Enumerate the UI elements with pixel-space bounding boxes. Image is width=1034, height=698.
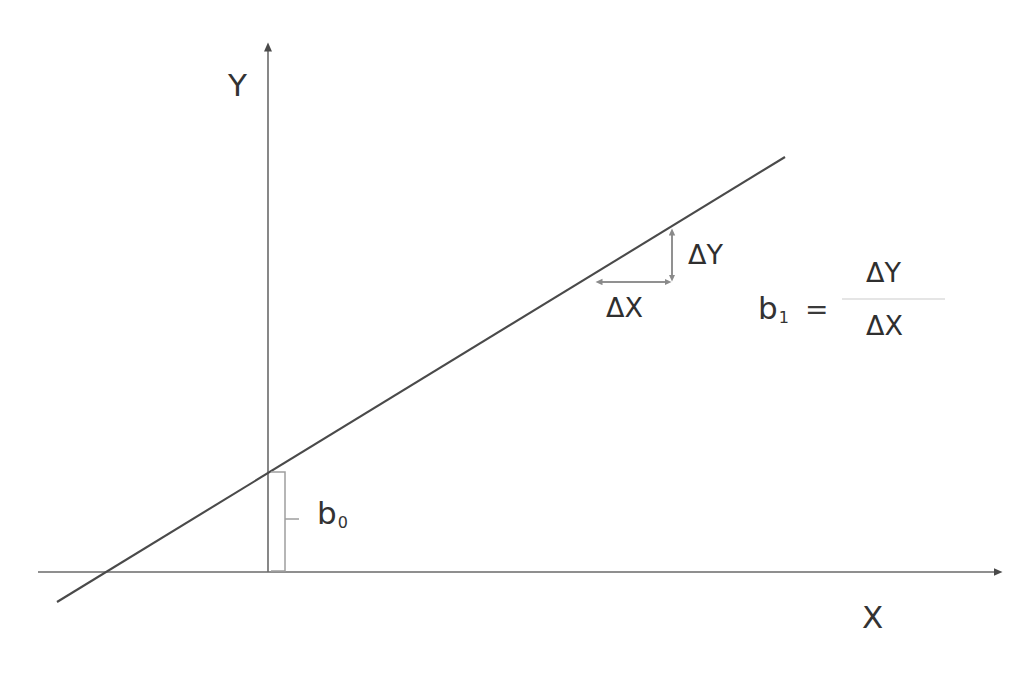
diagram-canvas — [0, 0, 1034, 698]
intercept-label-base: b — [317, 495, 337, 531]
regression-diagram: Y X ΔY ΔX b0 b1 = ΔY ΔX — [0, 0, 1034, 698]
slope-coefficient-label: b1 — [758, 293, 788, 324]
regression-line — [57, 157, 785, 602]
equals-sign: = — [805, 296, 828, 324]
fraction-numerator: ΔY — [866, 259, 901, 286]
x-axis-label: X — [862, 602, 883, 633]
slope-coefficient-base: b — [758, 290, 778, 326]
delta-y-label: ΔY — [688, 241, 723, 268]
slope-coefficient-subscript: 1 — [779, 308, 789, 327]
fraction-denominator: ΔX — [866, 312, 903, 339]
intercept-bracket — [271, 472, 299, 571]
intercept-label-subscript: 0 — [338, 513, 348, 532]
y-axis-label: Y — [228, 70, 247, 101]
delta-x-label: ΔX — [606, 294, 643, 321]
intercept-label: b0 — [317, 498, 347, 529]
